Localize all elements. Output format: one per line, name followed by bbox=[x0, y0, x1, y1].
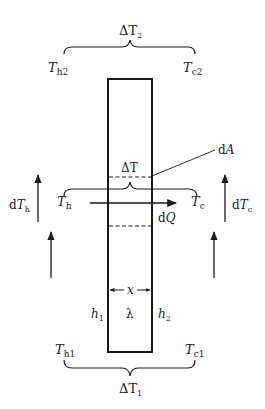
tc-label: Tc bbox=[191, 194, 205, 211]
x-label: x bbox=[127, 283, 134, 297]
th2-label: Th2 bbox=[48, 60, 68, 77]
h1-label: h1 bbox=[91, 307, 104, 323]
tc2-label: Tc2 bbox=[183, 60, 202, 77]
middle-brace bbox=[64, 182, 197, 196]
dq-label: dQ bbox=[158, 211, 176, 225]
heat-exchanger-diagram: ΔT2 Th2 Tc2 dA ΔT Th Tc dQ dTh dTc bbox=[0, 0, 265, 409]
dtc-label: dTc bbox=[232, 198, 253, 214]
da-leader-line bbox=[152, 150, 215, 176]
th-label: Th bbox=[57, 194, 72, 211]
th1-label: Th1 bbox=[55, 342, 75, 359]
tc1-label: Tc1 bbox=[185, 342, 204, 359]
dth-label: dTh bbox=[9, 198, 30, 214]
lambda-label: λ bbox=[126, 307, 134, 321]
bottom-brace bbox=[64, 360, 195, 376]
delta-t1-label: ΔT1 bbox=[119, 381, 142, 398]
da-label: dA bbox=[218, 143, 235, 157]
h2-label: h2 bbox=[158, 307, 171, 323]
top-brace bbox=[64, 40, 195, 54]
delta-t2-label: ΔT2 bbox=[119, 23, 142, 40]
delta-t-label: ΔT bbox=[121, 161, 138, 175]
